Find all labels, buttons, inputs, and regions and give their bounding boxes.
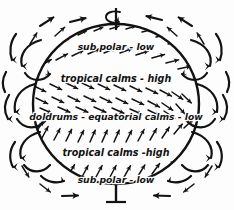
circulation-diagram-page: sub polar - low tropical calms - high do… bbox=[0, 0, 234, 210]
global-circulation-diagram: sub polar - low tropical calms - high do… bbox=[0, 0, 234, 210]
zone-label-sub-polar-north: sub polar - low bbox=[78, 41, 155, 52]
zone-label-doldrums-equator: doldrums - equatorial calms - low bbox=[29, 111, 203, 122]
zone-label-tropical-calms-south: tropical calms -high bbox=[62, 147, 169, 158]
zone-label-tropical-calms-north: tropical calms - high bbox=[61, 73, 172, 84]
zone-label-sub-polar-south: sub polar - low bbox=[78, 174, 155, 185]
